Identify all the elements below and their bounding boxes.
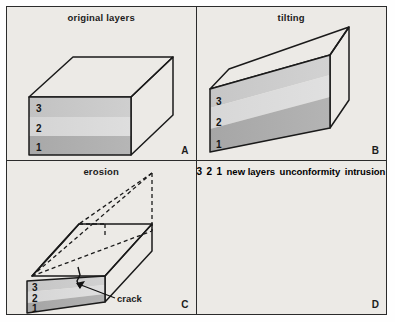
layer-label-1: 1 [32,303,38,314]
panel-b-tilting: tilting [197,7,387,161]
figure-frame: original layers [6,6,387,315]
layer-label-1: 1 [216,139,222,150]
layer-label-3: 3 [216,96,222,107]
block-side-face [131,57,173,155]
panel-d-new-layers: 3 2 1 new layers unconformity intrusion … [197,161,387,315]
block-top-face [32,224,152,276]
panel-a-original-layers: original layers [7,7,197,161]
panel-d-letter: D [372,299,379,310]
block-side-face [105,224,152,302]
block-left-wedge [32,224,79,276]
front-layer-3 [29,97,131,117]
layer-label-2: 2 [216,117,222,128]
panel-c-block: 3 2 1 crack [7,161,197,315]
panel-c-erosion: erosion [7,161,197,315]
panel-b-letter: B [372,145,379,156]
front-layer-2 [29,117,131,136]
layer-label-3: 3 [32,282,38,293]
block-side-face [330,27,349,128]
panel-a-block: 3 2 1 [7,7,197,161]
layer-label-3: 3 [36,103,42,114]
panel-c-letter: C [181,299,188,310]
panel-b-block: 3 2 1 [197,7,387,161]
layer-label-1: 1 [36,142,42,153]
front-layer-1 [29,136,131,155]
panel-d-block [197,161,387,315]
layer-label-2: 2 [36,123,42,134]
panel-a-letter: A [181,145,188,156]
crack-label: crack [117,293,143,304]
